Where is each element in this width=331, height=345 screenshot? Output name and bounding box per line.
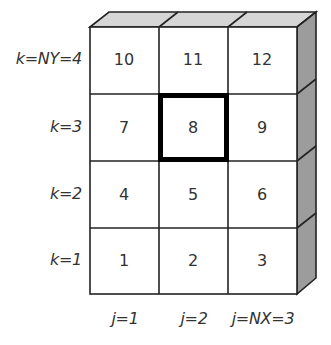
cell-9: 9 [228, 118, 296, 137]
row-label-k2: k=2 [0, 184, 82, 203]
cell-7: 7 [90, 118, 158, 137]
cell-10: 10 [90, 50, 158, 69]
cell-11: 11 [159, 50, 227, 69]
row-label-k1: k=1 [0, 250, 82, 269]
cell-12: 12 [228, 50, 296, 69]
cell-1: 1 [90, 251, 158, 270]
cell-3: 3 [228, 251, 296, 270]
cell-2: 2 [159, 251, 227, 270]
row-label-k3: k=3 [0, 117, 82, 136]
top-face [90, 12, 316, 27]
cell-8: 8 [159, 118, 227, 137]
col-label-j3: j=NX=3 [218, 309, 308, 328]
cell-4: 4 [90, 185, 158, 204]
cell-6: 6 [228, 185, 296, 204]
cell-5: 5 [159, 185, 227, 204]
row-label-k4: k=NY=4 [0, 49, 82, 68]
